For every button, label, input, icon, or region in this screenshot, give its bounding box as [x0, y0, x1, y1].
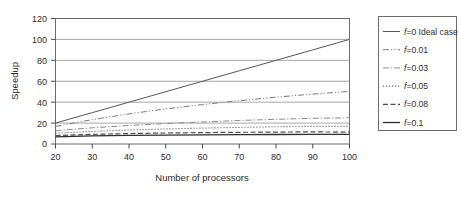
xtick-label-80: 80 — [271, 152, 281, 162]
legend: f=0 Ideal casef=0.01f=0.03f=0.05f=0.08f=… — [379, 17, 458, 131]
xtick-label-100: 100 — [342, 152, 357, 162]
ytick-label-60: 60 — [37, 77, 47, 87]
ytick-label-80: 80 — [37, 56, 47, 66]
xtick-label-60: 60 — [197, 152, 207, 162]
legend-label-0: f=0 Ideal case — [404, 27, 458, 37]
xtick-label-70: 70 — [234, 152, 244, 162]
xtick-label-30: 30 — [87, 152, 97, 162]
legend-label-3: f=0.05 — [404, 81, 428, 91]
legend-label-1: f=0.01 — [404, 45, 428, 55]
xtick-label-20: 20 — [50, 152, 60, 162]
y-axis-title: Speedup — [9, 62, 20, 100]
ytick-label-40: 40 — [37, 98, 47, 108]
x-axis-title: Number of processors — [155, 172, 249, 183]
xtick-label-90: 90 — [308, 152, 318, 162]
xtick-label-50: 50 — [161, 152, 171, 162]
legend-label-4: f=0.08 — [404, 99, 428, 109]
ytick-label-20: 20 — [37, 119, 47, 129]
ytick-label-120: 120 — [32, 14, 47, 24]
speedup-line-chart: 120 100 80 60 40 20 0 Speedup 20 30 40 — [0, 0, 461, 199]
xtick-label-40: 40 — [124, 152, 134, 162]
x-axis-tick-labels: 20 30 40 50 60 70 80 90 100 — [50, 152, 357, 162]
legend-label-2: f=0.03 — [404, 63, 428, 73]
chart-figure: 120 100 80 60 40 20 0 Speedup 20 30 40 — [0, 0, 461, 199]
ytick-label-0: 0 — [42, 139, 47, 149]
ytick-label-100: 100 — [32, 35, 47, 45]
legend-label-5: f=0.1 — [404, 118, 424, 128]
